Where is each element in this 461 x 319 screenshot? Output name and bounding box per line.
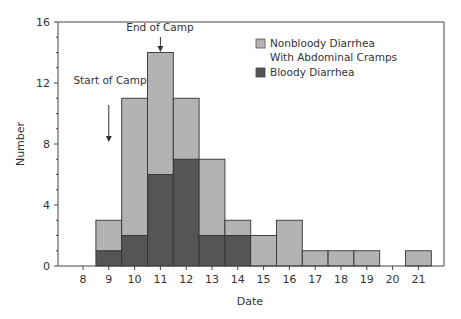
arrowhead-icon xyxy=(157,46,163,52)
annotation-label: End of Camp xyxy=(126,21,194,33)
x-tick-label: 18 xyxy=(334,273,348,286)
x-axis-title: Date xyxy=(237,295,264,308)
bar-segment-nonbloody xyxy=(328,251,354,266)
x-tick-label: 13 xyxy=(205,273,219,286)
y-tick-label: 0 xyxy=(43,260,50,273)
bar-segment-bloody xyxy=(173,159,199,266)
epidemic-curve-chart: 048121689101112131415161718192021 Start … xyxy=(0,0,461,319)
annotation-label: Start of Camp xyxy=(73,74,146,86)
x-tick-label: 19 xyxy=(360,273,374,286)
x-tick-label: 15 xyxy=(257,273,271,286)
bar-segment-nonbloody xyxy=(122,98,148,235)
x-tick-label: 9 xyxy=(105,273,112,286)
x-tick-label: 21 xyxy=(411,273,425,286)
x-tick-label: 14 xyxy=(231,273,245,286)
bar-segment-nonbloody xyxy=(96,220,122,251)
y-axis-title: Number xyxy=(14,121,27,166)
legend-label-bloody: Bloody Diarrhea xyxy=(270,66,354,78)
bar-segment-bloody xyxy=(148,175,174,267)
bar-segment-bloody xyxy=(225,236,251,267)
x-tick-label: 8 xyxy=(80,273,87,286)
bar-segment-bloody xyxy=(122,236,148,267)
legend: Nonbloody DiarrheaWith Abdominal CrampsB… xyxy=(256,37,397,78)
legend-swatch-nonbloody xyxy=(256,39,265,48)
bar-segment-nonbloody xyxy=(148,53,174,175)
x-tick-label: 17 xyxy=(308,273,322,286)
x-tick-label: 11 xyxy=(153,273,167,286)
bar-segment-nonbloody xyxy=(406,251,432,266)
y-tick-label: 16 xyxy=(36,16,50,29)
bar-segment-nonbloody xyxy=(199,159,225,235)
legend-label-nonbloody: Nonbloody Diarrhea xyxy=(270,37,375,49)
x-tick-label: 10 xyxy=(128,273,142,286)
bar-segment-nonbloody xyxy=(225,220,251,235)
bar-segment-bloody xyxy=(96,251,122,266)
arrowhead-icon xyxy=(106,136,112,142)
bar-segment-bloody xyxy=(199,236,225,267)
x-tick-label: 20 xyxy=(386,273,400,286)
bar-segment-nonbloody xyxy=(354,251,380,266)
y-tick-label: 8 xyxy=(43,138,50,151)
y-tick-label: 12 xyxy=(36,77,50,90)
bar-segment-nonbloody xyxy=(173,98,199,159)
x-tick-label: 16 xyxy=(282,273,296,286)
bar-segment-nonbloody xyxy=(302,251,328,266)
y-tick-label: 4 xyxy=(43,199,50,212)
legend-label-nonbloody-line2: With Abdominal Cramps xyxy=(270,51,397,63)
legend-swatch-bloody xyxy=(256,68,265,77)
x-tick-label: 12 xyxy=(179,273,193,286)
bar-segment-nonbloody xyxy=(251,236,277,267)
bar-segment-nonbloody xyxy=(277,220,303,266)
